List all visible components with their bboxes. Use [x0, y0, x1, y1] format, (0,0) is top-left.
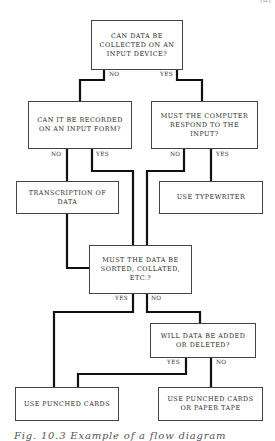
label-no: NO [51, 151, 61, 157]
label-yes: YES [115, 295, 128, 301]
outcome-punched-cards: USE PUNCHED CARDS [15, 387, 119, 421]
corner-mark: (a) [260, 0, 271, 4]
label-yes: YES [160, 71, 173, 77]
decision-added-deleted: WILL DATA BE ADDED OR DELETED? [150, 323, 256, 358]
label-no: NO [216, 359, 226, 365]
label-no: NO [109, 71, 119, 77]
label-yes: YES [96, 151, 109, 157]
label-yes: YES [216, 151, 229, 157]
label-no: NO [151, 295, 161, 301]
figure-caption: Fig. 10.3 Example of a flow diagram [14, 430, 226, 441]
process-transcription: TRANSCRIPTION OF DATA [16, 181, 119, 214]
label-no: NO [170, 151, 180, 157]
decision-input-form: CAN IT BE RECORDED ON AN INPUT FORM? [28, 101, 132, 149]
label-yes: YES [167, 359, 180, 365]
decision-input-device: CAN DATA BE COLLECTED ON AN INPUT DEVICE… [91, 20, 183, 70]
decision-sorted-collated: MUST THE DATA BE SORTED, COLLATED, ETC.? [89, 245, 192, 294]
outcome-cards-or-tape: USE PUNCHED CARDS OR PAPER TAPE [158, 387, 263, 421]
outcome-typewriter: USE TYPEWRITER [159, 181, 263, 214]
decision-computer-respond: MUST THE COMPUTER RESPOND TO THE INPUT? [151, 101, 258, 149]
